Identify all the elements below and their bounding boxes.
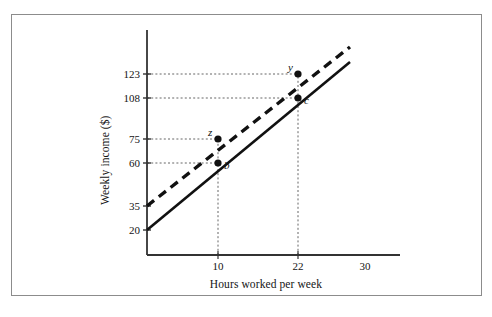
point-label-y: y (288, 62, 293, 73)
series-upper-dashed-line (147, 47, 350, 206)
gridlines-group (147, 74, 298, 255)
y-tick-label-60: 60 (112, 158, 140, 169)
point-label-b: b (224, 160, 230, 171)
data-point-y (294, 70, 301, 77)
y-tick-label-108: 108 (112, 93, 140, 104)
x-axis-title: Hours worked per week (210, 278, 322, 290)
y-tick-label-75: 75 (112, 134, 140, 145)
chart-canvas (0, 0, 492, 317)
data-point-z (214, 135, 221, 142)
plot-area: 123 108 75 60 35 20 10 22 30 z b y c Wee… (0, 0, 492, 317)
y-tick-label-35: 35 (112, 201, 140, 212)
data-point-c (294, 94, 301, 101)
x-tick-label-22: 22 (293, 261, 304, 272)
axes-group (147, 30, 400, 255)
series-lower-solid-line (147, 62, 350, 230)
figure-root: 123 108 75 60 35 20 10 22 30 z b y c Wee… (0, 0, 492, 317)
x-tick-label-30: 30 (360, 261, 371, 272)
y-tick-label-123: 123 (112, 69, 140, 80)
y-tick-label-20: 20 (112, 225, 140, 236)
data-point-b (214, 159, 221, 166)
x-tick-label-10: 10 (213, 261, 224, 272)
point-label-z: z (208, 127, 212, 138)
y-axis-title: Weekly income ($) (99, 115, 111, 205)
point-label-c: c (304, 95, 309, 106)
